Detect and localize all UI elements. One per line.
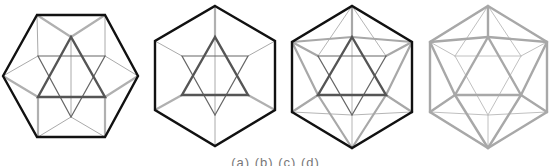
panel-3 — [292, 6, 412, 148]
panel-2 — [155, 6, 275, 146]
panel-1 — [3, 15, 138, 137]
figure-caption: (a) (b) (c) (d) — [0, 156, 551, 166]
polyhedra-diagram — [0, 0, 551, 166]
panel-4 — [430, 6, 547, 148]
